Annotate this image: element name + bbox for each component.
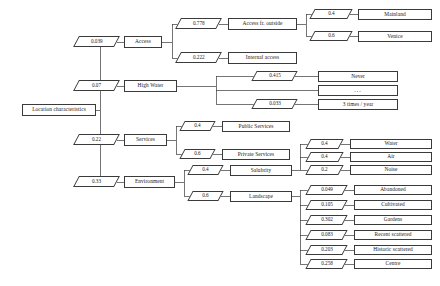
- leaf-public-services: Public Services: [222, 121, 290, 132]
- leaf-gardens: Gardens: [354, 215, 432, 225]
- edge-weight-value: 0.778: [193, 21, 205, 26]
- leaf-recent-scattered: Recent scattered: [354, 230, 432, 240]
- edge-weight-three-times-year: 0.033: [251, 99, 297, 109]
- edge-weight-environment: 0.33: [73, 176, 120, 187]
- edge-weight-gardens: 0.302: [305, 215, 347, 225]
- edge-weight-internal-access: 0.222: [175, 52, 222, 63]
- leaf-centre: Centre: [354, 259, 432, 269]
- edge-weight-value: 0.22: [92, 137, 101, 142]
- leaf-three-times-year: 3 times / year: [318, 99, 398, 110]
- edge-weight-value: 0.6: [202, 193, 208, 198]
- edge-weight-value: 0.105: [321, 202, 333, 207]
- node-environment: Environment: [124, 176, 175, 188]
- edge-weight-value: 0.049: [321, 187, 333, 192]
- leaf-historic-scattered: Historic scattered: [354, 245, 432, 255]
- edge-weight-value: 0.6: [328, 33, 334, 38]
- edge-weight-value: 0.4: [194, 123, 200, 128]
- leaf-abandoned: Abandoned: [354, 185, 432, 195]
- edge-weight-water: 0.4: [305, 139, 343, 149]
- edge-weight-abandoned: 0.049: [305, 185, 347, 195]
- leaf-noise: Noise: [350, 165, 432, 175]
- edge-weight-value: 0.258: [321, 261, 333, 266]
- edge-weight-cultivated: 0.105: [305, 200, 347, 210]
- edge-weight-recent-scattered: 0.083: [305, 230, 347, 240]
- edge-weight-venice: 0.6: [309, 31, 352, 41]
- edge-weight-value: 0.6: [194, 151, 200, 156]
- node-salubrity: Salubrity: [230, 165, 292, 176]
- leaf-venice: Venice: [358, 31, 432, 42]
- edge-weight-public-services: 0.4: [179, 121, 215, 131]
- edge-weight-value: 0.4: [202, 167, 208, 172]
- node-internal-access: Internal access: [228, 52, 297, 64]
- edge-weight-access: 0.039: [73, 36, 120, 47]
- edge-weight-noise: 0.2: [305, 165, 343, 175]
- root-node: Location characteristics: [22, 104, 96, 116]
- edge-weight-value: 0.2: [321, 167, 327, 172]
- edge-weight-air: 0.4: [305, 152, 343, 162]
- edge-weight-mainland: 0.4: [309, 9, 352, 19]
- decision-tree-diagram: Location characteristics 0.039 0.07 0.22…: [0, 0, 440, 286]
- edge-weight-value: 0.302: [321, 217, 333, 222]
- edge-weight-salubrity: 0.4: [187, 165, 223, 175]
- edge-weight-value: 0.083: [321, 232, 333, 237]
- edge-weight-value: 0.415: [269, 73, 281, 78]
- edge-weight-value: 0.33: [92, 179, 101, 184]
- edge-weight-value: 0.07: [92, 83, 101, 88]
- edge-weight-services: 0.22: [73, 134, 120, 145]
- node-access-fr-outside: Access fr. outside: [228, 18, 297, 30]
- edge-weight-value: 0.203: [321, 247, 333, 252]
- edge-weight-value: 0.4: [328, 11, 334, 16]
- leaf-high-water-ellipsis: ...: [318, 85, 398, 96]
- edge-weight-centre: 0.258: [305, 259, 347, 269]
- edge-weight-value: 0.4: [321, 141, 327, 146]
- leaf-mainland: Mainland: [358, 9, 432, 20]
- node-access: Access: [124, 36, 162, 48]
- edge-weight-value: 0.039: [91, 39, 103, 44]
- edge-weight-never: 0.415: [251, 71, 297, 81]
- edge-weight-value: 0.033: [269, 101, 281, 106]
- edge-weight-historic-scattered: 0.203: [305, 245, 347, 255]
- node-high-water: High Water: [124, 80, 177, 92]
- leaf-cultivated: Cultivated: [354, 200, 432, 210]
- node-services: Services: [124, 134, 167, 146]
- edge-weight-private-services: 0.6: [179, 149, 215, 159]
- leaf-private-services: Private Services: [222, 149, 290, 160]
- edge-weight-access-outside: 0.778: [175, 18, 222, 29]
- edge-weight-value: 0.222: [193, 55, 205, 60]
- node-landscape: Landscape: [230, 191, 292, 202]
- edge-weight-high-water: 0.07: [73, 80, 120, 91]
- leaf-air: Air: [350, 152, 432, 162]
- leaf-never: Never: [318, 71, 398, 82]
- edge-weight-value: 0.4: [321, 154, 327, 159]
- leaf-water: Water: [350, 139, 432, 149]
- edge-weight-landscape: 0.6: [187, 191, 223, 201]
